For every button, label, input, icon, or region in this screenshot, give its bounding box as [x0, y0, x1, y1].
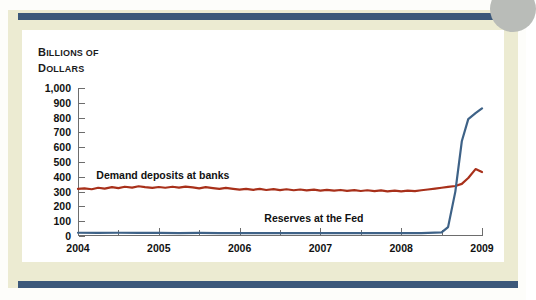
y-tick-label: 300 [53, 186, 71, 198]
y-axis-title-line2: DOLLARS [38, 60, 99, 76]
y-axis-title-line1-text: ILLIONS OF [46, 48, 99, 58]
y-tick-label: 100 [53, 215, 71, 227]
x-tick-label: 2006 [228, 242, 251, 254]
y-axis-title-line2-text: OLLARS [46, 64, 84, 74]
plot-area: 1,0009008007006005004003002001000 200420… [78, 88, 482, 236]
top-rule [18, 13, 513, 20]
y-tick-label: 200 [53, 200, 71, 212]
bottom-rule [18, 281, 518, 288]
y-tick-label: 1,000 [45, 82, 71, 94]
y-tick-label: 500 [53, 156, 71, 168]
y-tick-label: 400 [53, 171, 71, 183]
y-tick [79, 236, 85, 237]
y-tick-label: 900 [53, 97, 71, 109]
y-tick-label: 600 [53, 141, 71, 153]
x-tick-label: 2004 [66, 242, 89, 254]
x-tick-label: 2009 [470, 242, 493, 254]
y-tick-label: 800 [53, 112, 71, 124]
plot-card: BILLIONS OF DOLLARS 1,000900800700600500… [22, 30, 504, 262]
x-tick-label: 2007 [309, 242, 332, 254]
x-tick [482, 228, 483, 236]
series-label: Reserves at the Fed [264, 212, 363, 224]
series-label: Demand deposits at banks [96, 169, 229, 181]
y-axis-title: BILLIONS OF DOLLARS [38, 44, 99, 76]
x-tick-label: 2005 [147, 242, 170, 254]
x-tick-label: 2008 [390, 242, 413, 254]
y-axis-title-line1: BILLIONS OF [38, 44, 99, 60]
y-tick-label: 0 [65, 230, 71, 242]
y-tick-label: 700 [53, 126, 71, 138]
